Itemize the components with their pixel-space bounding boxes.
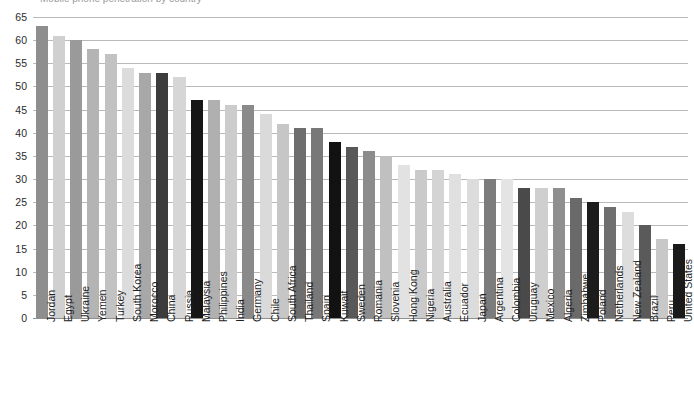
x-tick-label: Morocco [149, 282, 160, 322]
y-tick-label-20: 20 [15, 220, 27, 230]
x-tick-label: Poland [597, 289, 608, 322]
bar [36, 26, 48, 318]
x-tick-label: Hong Kong [408, 269, 419, 322]
y-tick-label-5: 5 [21, 290, 27, 300]
y-tick-label-55: 55 [15, 58, 27, 68]
x-tick-label: Egypt [63, 295, 74, 322]
y-tick-label-30: 30 [15, 174, 27, 184]
x-tick-label: China [166, 295, 177, 322]
x-tick-label: Algeria [563, 289, 574, 322]
x-tick-label: Germany [252, 279, 263, 322]
bar [53, 36, 65, 318]
bar [105, 54, 117, 318]
y-axis: 05101520253035404550556065 [0, 0, 33, 406]
x-tick-label: Chile [270, 298, 281, 322]
x-tick-label: Yemen [97, 290, 108, 322]
x-tick-label: South Africa [287, 265, 298, 322]
y-tick-label-50: 50 [15, 81, 27, 91]
x-tick-label: Mexico [545, 289, 556, 322]
bar [173, 77, 185, 318]
x-tick-label: Uruguay [528, 282, 539, 322]
x-tick-label: Spain [321, 295, 332, 322]
x-tick-label: Netherlands [614, 265, 625, 322]
x-tick-label: Kuwait [339, 290, 350, 322]
x-tick-label: Peru [666, 300, 677, 322]
y-tick-label-15: 15 [15, 244, 27, 254]
x-tick-label: Australia [442, 281, 453, 322]
x-tick-label: New Zealand [632, 260, 643, 322]
x-tick-label: Argentina [494, 277, 505, 322]
x-tick-label: Zimbabwe [580, 274, 591, 322]
y-tick-label-35: 35 [15, 151, 27, 161]
y-tick-label-40: 40 [15, 128, 27, 138]
x-tick-label: Nigeria [425, 289, 436, 322]
y-tick-label-25: 25 [15, 197, 27, 207]
y-tick-label-0: 0 [21, 313, 27, 323]
y-tick-label-10: 10 [15, 267, 27, 277]
x-tick-label: Turkey [115, 290, 126, 322]
y-tick-label-60: 60 [15, 35, 27, 45]
x-tick-label: South Korea [132, 264, 143, 322]
x-tick-label: India [235, 299, 246, 322]
bar [70, 40, 82, 318]
x-tick-label: Brazil [649, 296, 660, 322]
x-tick-label: Colombia [511, 278, 522, 322]
chart-title-clipped: Mobile phone penetration by country [40, 0, 202, 4]
x-tick-label: Romania [373, 280, 384, 322]
x-tick-label: Slovenia [390, 282, 401, 322]
y-tick-label-65: 65 [15, 12, 27, 22]
x-tick-label: Ecuador [459, 283, 470, 322]
x-axis: JordanEgyptUkraineYemenTurkeySouth Korea… [33, 320, 688, 406]
x-tick-label: Thailand [304, 282, 315, 322]
x-tick-label: Sweden [356, 284, 367, 322]
x-tick-label: Japan [477, 293, 488, 322]
x-tick-label: Jordan [46, 290, 57, 322]
y-tick-label-45: 45 [15, 105, 27, 115]
bar [87, 49, 99, 318]
x-tick-label: Philippines [218, 271, 229, 322]
x-tick-label: Russia [184, 290, 195, 322]
x-tick-label: Ukraine [80, 286, 91, 322]
x-tick-label: Malaysia [201, 281, 212, 322]
x-tick-label: United States [683, 259, 694, 322]
